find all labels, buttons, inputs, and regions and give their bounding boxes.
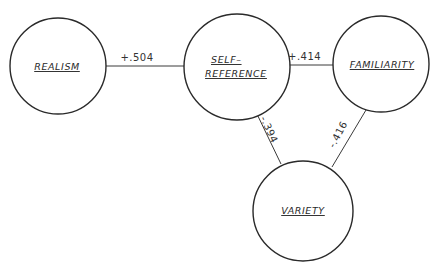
- edge-label-familiarity-variety: -.416: [326, 119, 349, 149]
- node-label-self-reference-line1: SELF–: [211, 54, 242, 65]
- node-label-realism: REALISM: [34, 61, 80, 72]
- edge-label-self-reference-familiarity: +.414: [288, 51, 321, 62]
- node-label-self-reference-line2: REFERENCE: [205, 68, 267, 79]
- node-self-reference: SELF– REFERENCE: [184, 14, 290, 120]
- edge-label-realism-self-reference: +.504: [120, 52, 153, 63]
- edge-label-self-reference-variety: -.394: [258, 114, 280, 144]
- node-variety: VARIETY: [253, 161, 353, 261]
- node-familiarity: FAMILIARITY: [333, 16, 429, 112]
- node-label-variety: VARIETY: [281, 205, 325, 216]
- node-label-familiarity: FAMILIARITY: [350, 59, 415, 70]
- node-realism: REALISM: [10, 18, 106, 114]
- correlation-diagram: REALISM SELF– REFERENCE FAMILIARITY VARI…: [0, 0, 440, 268]
